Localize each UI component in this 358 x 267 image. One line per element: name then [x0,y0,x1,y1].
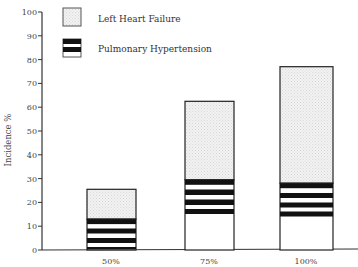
legend-label-ph: Pulmonary Hypertension [98,44,212,54]
y-tick-60: 60 [27,103,37,112]
y-axis: 100 90 80 70 60 50 40 30 20 10 0 Inciden… [3,8,42,255]
y-tick-50: 50 [27,127,37,136]
x-tick-75: 75% [200,257,218,266]
legend: Left Heart Failure Pulmonary Hypertensio… [63,8,212,57]
bar-50-left-heart-failure [87,189,136,219]
bar-75-left-heart-failure [185,101,234,180]
legend-swatch-ph [63,39,81,57]
y-axis-label: Incidence % [3,114,13,167]
incidence-bar-chart: 100 90 80 70 60 50 40 30 20 10 0 Inciden… [0,0,358,267]
bar-50 [87,189,136,250]
y-tick-10: 10 [27,222,37,231]
y-tick-20: 20 [27,198,37,207]
bar-100 [280,67,333,250]
y-tick-30: 30 [27,175,37,184]
y-tick-0: 0 [32,246,37,255]
bar-100-left-heart-failure [280,67,333,184]
legend-swatch-lhf [63,8,81,26]
y-tick-40: 40 [27,151,37,160]
y-tick-100: 100 [22,8,37,17]
x-tick-100: 100% [295,257,318,266]
x-tick-50: 50% [102,257,120,266]
legend-label-lhf: Left Heart Failure [98,14,181,24]
bar-75 [185,101,234,250]
y-tick-80: 80 [27,56,37,65]
y-tick-90: 90 [27,32,37,41]
y-tick-70: 70 [27,79,37,88]
